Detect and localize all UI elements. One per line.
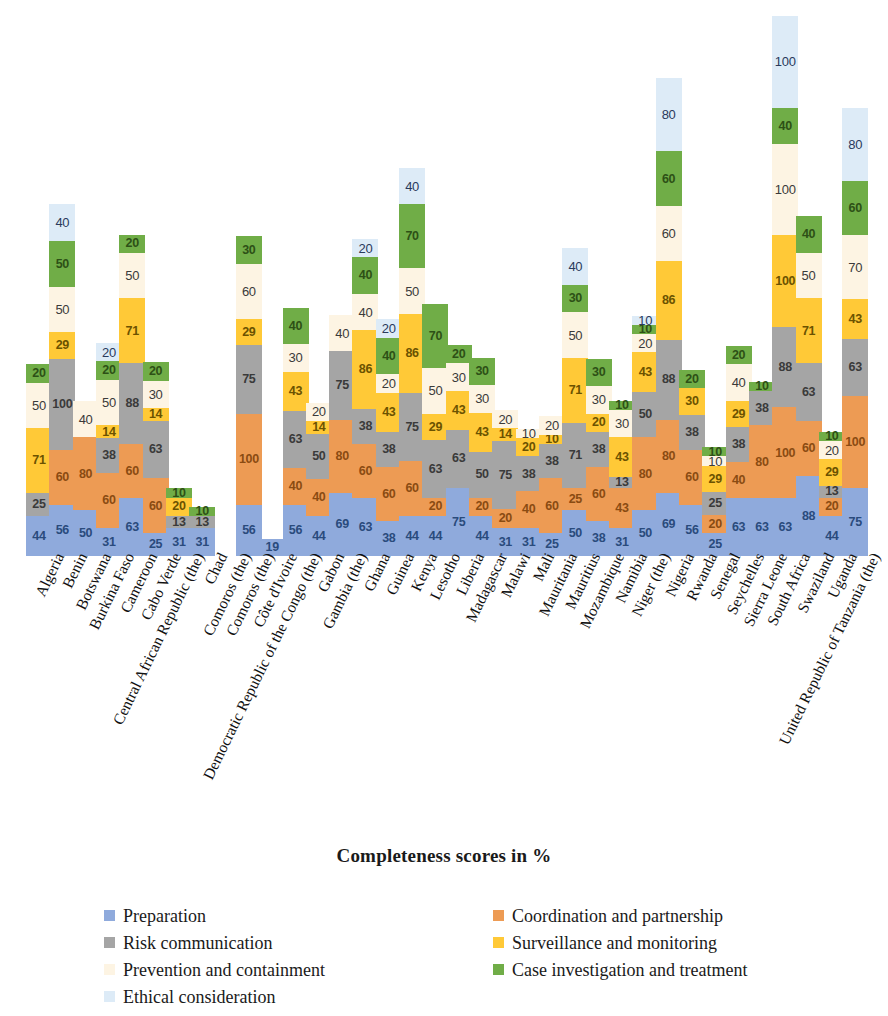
bar-segment-value: 38 <box>382 443 395 456</box>
bar-segment: 38 <box>539 444 565 479</box>
bar-segment-value: 40 <box>405 180 419 193</box>
bar-segment-value: 100 <box>775 275 795 288</box>
bar-segment: 40 <box>283 308 309 345</box>
legend-item[interactable]: Coordination and partnership <box>493 902 864 929</box>
bar-segment-value: 88 <box>779 361 792 374</box>
bar-segment-value: 70 <box>405 230 418 243</box>
bar-segment: 20 <box>306 403 332 421</box>
bar-segment: 29 <box>702 466 728 492</box>
bar-segment-value: 14 <box>312 421 325 434</box>
bar-segment-value: 63 <box>429 463 442 476</box>
bar-segment: 71 <box>796 298 822 363</box>
legend-swatch-icon <box>104 991 115 1002</box>
legend-item-label: Case investigation and treatment <box>512 961 747 979</box>
bar-segment-value: 100 <box>52 398 72 411</box>
bar-segment-value: 20 <box>359 242 373 255</box>
bar-segment: 50 <box>306 434 332 480</box>
bar-segment-value: 10 <box>615 399 628 412</box>
bar-segment: 30 <box>586 359 612 386</box>
bar-segment: 20 <box>143 362 169 380</box>
bar-segment-value: 25 <box>32 498 45 511</box>
bar-segment-value: 71 <box>32 454 45 467</box>
bar-segment: 20 <box>492 410 518 428</box>
bar-segment: 60 <box>236 264 262 319</box>
bar-segment-value: 80 <box>335 450 348 463</box>
legend-item[interactable]: Prevention and containment <box>104 956 475 983</box>
bar-segment-value: 75 <box>242 373 255 386</box>
bar-segment-value: 80 <box>755 456 768 469</box>
bar-segment: 50 <box>422 368 448 414</box>
bar-segment: 50 <box>49 241 75 287</box>
bar-segment: 10 <box>609 401 635 410</box>
bar-segment-value: 50 <box>405 285 419 298</box>
bar-segment-value: 20 <box>312 405 326 418</box>
bar-segment-value: 20 <box>522 441 535 454</box>
bar-segment-value: 60 <box>545 500 558 513</box>
legend-item[interactable]: Surveillance and monitoring <box>493 929 864 956</box>
bar-segment: 29 <box>819 459 845 485</box>
bar-segment-value: 20 <box>149 365 162 378</box>
bar-segment-value: 50 <box>55 303 69 316</box>
bar-segment: 10 <box>819 432 845 441</box>
legend-swatch-icon <box>493 937 504 948</box>
bar-segment: 80 <box>73 437 99 510</box>
bar-column: 566010029505040 <box>49 204 75 556</box>
legend-item[interactable]: Risk communication <box>104 929 475 956</box>
bar-segment-value: 30 <box>242 244 255 257</box>
bar-segment-value: 10 <box>755 380 768 393</box>
bar-segment: 43 <box>842 299 868 338</box>
bar-segment-value: 10 <box>709 446 722 459</box>
bar-segment: 20 <box>26 364 52 382</box>
bar-segment-value: 50 <box>639 408 652 421</box>
bar-segment-value: 43 <box>289 385 302 398</box>
legend-item[interactable]: Preparation <box>104 902 475 929</box>
bar-segment: 60 <box>656 206 682 261</box>
bar-segment-value: 38 <box>732 438 745 451</box>
bar-segment: 20 <box>96 343 122 361</box>
bar-segment-value: 86 <box>359 363 372 376</box>
bar-segment-value: 44 <box>32 530 45 543</box>
bar-segment-value: 38 <box>102 449 115 462</box>
bar-segment-value: 40 <box>779 120 792 133</box>
legend-item-label: Prevention and containment <box>123 961 325 979</box>
bar-segment-value: 40 <box>802 228 815 241</box>
bar-segment-value: 10 <box>825 430 838 443</box>
bar-segment-value: 25 <box>569 493 582 506</box>
bar-segment-value: 40 <box>55 216 69 229</box>
bar-segment-value: 29 <box>732 408 745 421</box>
bar-segment: 63 <box>446 430 472 488</box>
bar-segment-value: 30 <box>685 395 698 408</box>
legend-swatch-icon <box>493 910 504 921</box>
bar-segment: 20 <box>539 416 565 434</box>
bar-segment: 71 <box>562 358 588 423</box>
bar-segment-value: 20 <box>545 419 559 432</box>
bar-segment-value: 88 <box>662 373 675 386</box>
bar-segment-value: 75 <box>335 379 348 392</box>
bar-segment-value: 71 <box>126 325 139 338</box>
bar-segment: 10 <box>632 316 658 325</box>
legend-item[interactable]: Case investigation and treatment <box>493 956 864 983</box>
bar-segment: 63 <box>143 421 169 479</box>
bar-segment-value: 75 <box>499 469 512 482</box>
bar-segment: 14 <box>492 428 518 441</box>
bar-segment-value: 14 <box>102 426 115 439</box>
bar-segment-value: 13 <box>615 476 628 489</box>
bar-segment: 60 <box>842 181 868 236</box>
bar-segment-value: 20 <box>126 237 139 250</box>
bar-segment-value: 38 <box>592 443 605 456</box>
legend-item-label: Risk communication <box>123 934 272 952</box>
bar-segment: 86 <box>352 330 378 409</box>
bar-segment-value: 10 <box>545 433 558 446</box>
bar-segment: 10 <box>749 382 775 391</box>
bar-segment: 71 <box>562 423 588 488</box>
bar-segment: 30 <box>143 381 169 408</box>
bar-segment: 29 <box>726 401 752 427</box>
bar-segment-value: 60 <box>56 471 69 484</box>
bar-segment: 20 <box>119 235 145 253</box>
bar-segment: 100 <box>772 235 798 326</box>
bar-segment-value: 60 <box>242 285 256 298</box>
bar-segment: 30 <box>469 385 495 412</box>
bar-segment: 60 <box>796 421 822 476</box>
bar-segment-value: 20 <box>732 349 745 362</box>
legend-item[interactable]: Ethical consideration <box>104 983 475 1010</box>
